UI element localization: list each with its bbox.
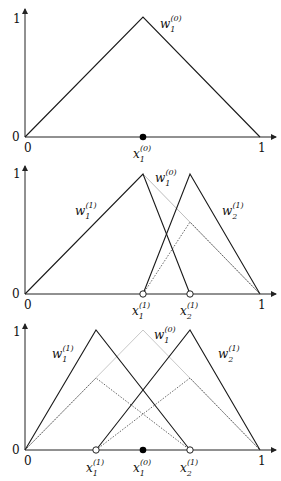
basis-function-diagram: 1 0 0 1 w1(0) x1(0) 1 0 0 1 w1(1) w1(0) … <box>0 0 281 481</box>
label-x1-1: x1(1) <box>86 458 104 478</box>
label-x1-0: x1(0) <box>133 458 151 478</box>
label-w2-1: w2(1) <box>222 201 244 221</box>
x-tick-1: 1 <box>258 454 266 468</box>
x-tick-0: 0 <box>24 141 32 155</box>
node-open-x2-1 <box>187 447 193 453</box>
hat-w1-1 <box>25 174 190 294</box>
panel-level1: 1 0 0 1 w1(1) w1(0) w2(1) x1(1) x2(1) <box>12 166 276 321</box>
label-w1-0: w1(0) <box>155 168 177 188</box>
panel-level0: 1 0 0 1 w1(0) x1(0) <box>12 9 276 164</box>
label-w1-1: w1(1) <box>75 201 97 221</box>
x-tick-0: 0 <box>24 454 32 468</box>
label-x2-1: x2(1) <box>180 458 198 478</box>
node-open-x2-1 <box>187 291 193 297</box>
y-tick-0: 0 <box>12 443 20 457</box>
label-x1-0: x1(0) <box>133 144 151 164</box>
label-w1-1: w1(1) <box>52 344 74 364</box>
node-open-x1-1 <box>140 291 146 297</box>
label-x2-1: x2(1) <box>180 301 198 321</box>
label-x1-1: x1(1) <box>132 301 150 321</box>
node-open-x1-1 <box>93 447 99 453</box>
label-w1-0: w1(0) <box>160 14 182 34</box>
node-filled-x1-0 <box>140 134 147 141</box>
y-tick-0: 0 <box>12 287 20 301</box>
hat-w1-0 <box>25 17 260 137</box>
y-tick-1: 1 <box>13 167 21 181</box>
y-tick-0: 0 <box>12 130 20 144</box>
hat-w1-1 <box>25 330 190 450</box>
node-filled-x1-0 <box>140 447 147 454</box>
scaled-w1-1-dotted <box>25 378 190 450</box>
label-w1-0: w1(0) <box>154 325 176 345</box>
x-tick-0: 0 <box>24 298 32 312</box>
scaled-w2-1-dotted <box>143 222 260 294</box>
x-tick-1: 1 <box>258 141 266 155</box>
label-w2-1: w2(1) <box>218 344 240 364</box>
y-tick-1: 1 <box>13 325 21 339</box>
x-tick-1: 1 <box>258 298 266 312</box>
y-tick-1: 1 <box>13 12 21 26</box>
scaled-w2-1-dotted <box>96 378 260 450</box>
panel-level1-refined: 1 0 0 1 w1(1) w1(0) w2(1) x1(1) x1(0) x2… <box>12 324 276 478</box>
